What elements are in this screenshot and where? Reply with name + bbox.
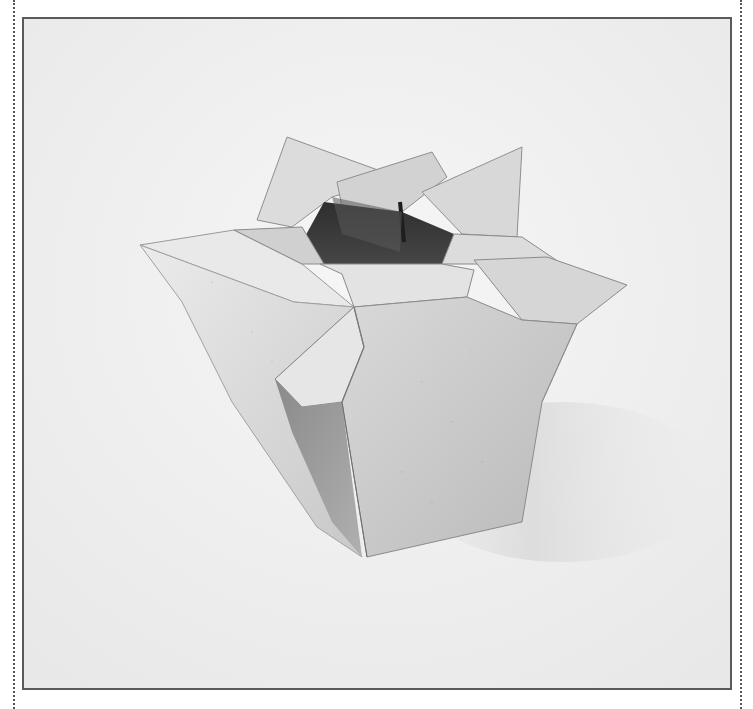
photo-frame: Black-and-white photograph of a folded p… (22, 17, 732, 690)
dotted-margin-rule-right (740, 0, 742, 709)
origami-vase-photo (24, 19, 730, 688)
dotted-margin-rule-left (13, 0, 15, 709)
